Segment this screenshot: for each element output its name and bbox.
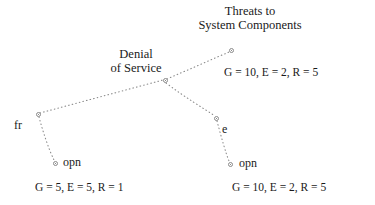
node-junction[interactable]: [163, 78, 168, 83]
node-right[interactable]: [214, 116, 219, 121]
diagram-title-line1: Threats to: [185, 4, 315, 18]
edge-left-to-left-leaf: [39, 117, 54, 160]
node-root[interactable]: [229, 48, 234, 53]
annotation-right-upper: G = 10, E = 2, R = 5: [224, 66, 318, 79]
node-right-leaf[interactable]: [228, 162, 233, 167]
diagram-title-line2: System Components: [185, 18, 315, 32]
edge-left-to-junction: [40, 80, 163, 113]
node-left-leaf[interactable]: [53, 161, 58, 166]
node-label-left-fr: fr: [14, 119, 22, 132]
subtree-label-line2: of Service: [100, 61, 172, 75]
edge-junction-to-right: [166, 83, 215, 116]
node-label-right-leaf-opn: opn: [239, 157, 257, 170]
subtree-label-denial-of-service: Denial of Service: [100, 47, 172, 75]
annotation-bottom-right: G = 10, E = 2, R = 5: [232, 181, 326, 194]
subtree-label-line1: Denial: [100, 47, 172, 61]
node-label-right-e: e: [222, 123, 227, 136]
node-left[interactable]: [36, 112, 41, 117]
diagram-title: Threats to System Components: [185, 4, 315, 32]
edge-junction-to-root: [167, 52, 229, 79]
annotation-bottom-left: G = 5, E = 5, R = 1: [35, 181, 123, 194]
diagram-canvas: Threats to System Components Denial of S…: [0, 0, 375, 205]
node-label-left-leaf-opn: opn: [63, 156, 81, 169]
